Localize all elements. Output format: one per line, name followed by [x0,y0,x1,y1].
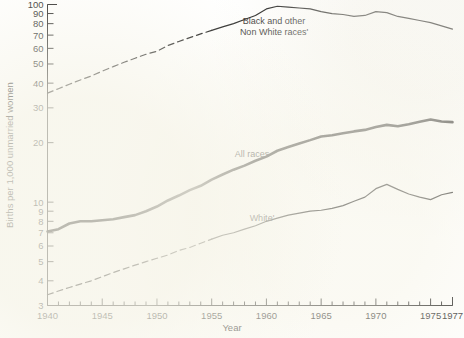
y-tick-label: 6 [38,240,43,251]
y-tick-label: 4 [38,275,43,286]
y-tick-label: 100 [28,0,44,10]
y-axis-ticks [48,5,54,306]
series-path-dashed-0 [48,30,212,93]
x-axis-ticks [48,299,453,306]
y-tick-label: 80 [33,18,44,29]
y-tick-label: 5 [38,256,43,267]
series-path-dashed-2 [48,239,212,295]
series-path-solid-2 [212,184,453,239]
y-tick-label: 20 [33,137,44,148]
x-tick-label: 1950 [146,310,167,321]
series-label-all-races: All races [235,149,270,159]
x-tick-label: 1940 [37,310,58,321]
y-axis-title: Births per 1,000 unmarried women [4,82,15,228]
chart-figure: 3456789102030405060708090100 19401945195… [0,0,464,338]
y-tick-label: 30 [33,102,44,113]
x-tick-label: 1970 [365,310,386,321]
y-tick-label: 60 [33,43,44,54]
x-tick-label: 1975 [420,310,441,321]
y-axis-tick-labels: 3456789102030405060708090100 [28,0,44,311]
line-chart-svg: 3456789102030405060708090100 19401945195… [0,0,464,338]
y-tick-label: 8 [38,216,43,227]
x-tick-label: 1965 [311,310,332,321]
series-label-black-other-line2: Non White races' [240,27,309,37]
y-tick-label: 70 [33,30,44,41]
series-label-black-other-line1: Black and other [243,16,306,26]
y-tick-label: 50 [33,58,44,69]
x-tick-label: 1945 [92,310,113,321]
x-tick-label: 1955 [201,310,222,321]
y-tick-label: 40 [33,78,44,89]
x-tick-label: 1977 [442,310,463,321]
x-axis-title: Year [222,322,241,333]
series-label-white: White' [250,213,275,223]
x-tick-label: 1960 [256,310,277,321]
x-axis-tick-labels: 194019451950195519601965197019751977 [37,310,463,321]
y-tick-label: 10 [33,197,44,208]
y-tick-label: 7 [38,227,43,238]
